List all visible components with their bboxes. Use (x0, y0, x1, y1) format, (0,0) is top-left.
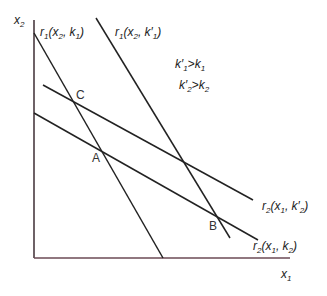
curve-r1-k1-prime (96, 18, 230, 238)
curve-r2-k2 (34, 113, 258, 240)
y-axis-label: x2 (14, 14, 24, 29)
x-axis-label: x1 (281, 268, 291, 283)
x-axis-label-sub: 1 (287, 274, 291, 283)
label-r2-k2-prime: r2(x1, k′2) (262, 200, 308, 215)
point-c-label: C (76, 89, 85, 101)
condition-k1: k′1>k1 (175, 58, 205, 73)
y-axis-label-sub: 2 (20, 20, 24, 29)
curve-r1-k1 (34, 33, 163, 258)
point-a-label: A (92, 152, 100, 164)
condition-k2: k′2>k2 (179, 79, 209, 94)
label-r1-k1-prime: r1(x2, k′1) (115, 26, 161, 41)
point-b-label: B (209, 220, 217, 232)
label-r1-k1: r1(x2, k1) (40, 26, 84, 41)
label-r2-k2: r2(x1, k2) (253, 240, 297, 255)
